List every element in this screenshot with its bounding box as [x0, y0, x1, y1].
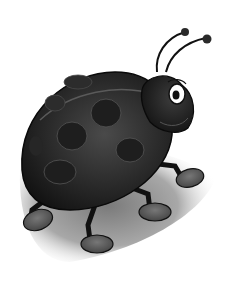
antenna-tip-left [181, 28, 189, 36]
antenna-tip-right [203, 35, 212, 44]
pupil [173, 91, 180, 100]
foot [81, 235, 113, 253]
foot [139, 203, 171, 221]
illustration [0, 0, 225, 281]
antennae [157, 32, 206, 72]
